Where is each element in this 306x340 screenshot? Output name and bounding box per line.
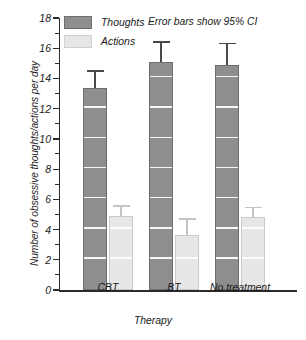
y-tick-minor	[55, 153, 59, 154]
y-tick-label: 6	[45, 193, 51, 205]
error-bar-stem	[120, 205, 121, 216]
y-tick-major	[53, 169, 59, 170]
y-tick-major	[53, 138, 59, 139]
y-tick-label: 10	[39, 133, 51, 145]
y-tick-major	[53, 289, 59, 290]
error-bar-cap	[113, 205, 130, 206]
legend: Thoughts Actions	[64, 14, 144, 52]
error-bar-stem	[226, 43, 227, 65]
legend-swatch-actions-icon	[64, 35, 92, 48]
y-tick-label: 8	[45, 163, 51, 175]
error-bar-cap	[219, 43, 236, 44]
y-tick-label: 2	[45, 254, 51, 266]
error-bar-cap	[245, 207, 262, 208]
y-tick-major	[53, 108, 59, 109]
x-axis-label-no-treatment: No treatment	[210, 282, 270, 293]
legend-item-thoughts: Thoughts	[64, 14, 144, 31]
y-tick-minor	[55, 184, 59, 185]
legend-item-actions: Actions	[64, 33, 144, 50]
error-bar-cap	[87, 70, 104, 71]
y-tick-major	[53, 17, 59, 18]
error-bar-stem	[160, 41, 161, 61]
y-tick-label: 16	[39, 42, 51, 54]
error-bar-no-treatment-actions	[241, 207, 265, 290]
x-axis-label-bt: BT	[167, 282, 180, 293]
legend-label-actions: Actions	[101, 36, 135, 47]
y-axis-title: Number of obsessive thoughts/actions per…	[29, 34, 40, 294]
y-tick-minor	[55, 123, 59, 124]
y-tick-minor	[55, 33, 59, 34]
error-bar-cap	[153, 41, 170, 42]
y-tick-label: 14	[39, 72, 51, 84]
y-tick-major	[53, 259, 59, 260]
y-tick-major	[53, 48, 59, 49]
y-tick-label: 0	[45, 284, 51, 296]
error-bar-bt-actions	[175, 218, 199, 290]
error-bar-stem	[94, 70, 95, 87]
y-tick-minor	[55, 93, 59, 94]
y-tick-minor	[55, 214, 59, 215]
y-tick-minor	[55, 274, 59, 275]
error-bar-cbt-actions	[109, 205, 133, 290]
legend-swatch-thoughts-icon	[64, 16, 92, 29]
error-bar-stem	[252, 207, 253, 217]
y-tick-major	[53, 78, 59, 79]
y-tick-label: 12	[39, 103, 51, 115]
error-bar-annotation: Error bars show 95% CI	[148, 16, 257, 27]
y-tick-minor	[55, 63, 59, 64]
y-tick-major	[53, 199, 59, 200]
x-axis-title: Therapy	[0, 315, 306, 326]
legend-label-thoughts: Thoughts	[101, 17, 144, 28]
y-tick-label: 18	[39, 12, 51, 24]
y-tick-minor	[55, 244, 59, 245]
y-tick-major	[53, 229, 59, 230]
x-axis-label-cbt: CBT	[98, 282, 119, 293]
error-bar-no-treatment-thoughts	[215, 43, 239, 290]
error-bar-bt-thoughts	[149, 41, 173, 290]
error-bar-cbt-thoughts	[83, 70, 107, 290]
y-axis-line	[59, 18, 60, 290]
plot-area: 024681012141618	[59, 18, 297, 290]
error-bar-cap	[179, 218, 196, 219]
y-tick-label: 4	[45, 224, 51, 236]
bar-chart: Number of obsessive thoughts/actions per…	[0, 0, 306, 340]
error-bar-stem	[186, 218, 187, 235]
